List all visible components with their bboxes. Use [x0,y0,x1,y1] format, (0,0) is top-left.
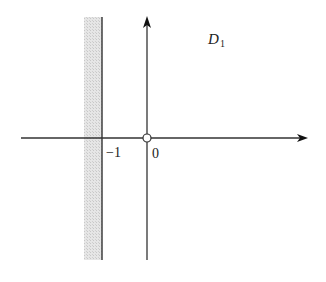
origin-excluded-point [143,134,151,142]
complex-plane-diagram: −1 0 D 1 [0,0,326,282]
region-label: D [207,31,219,47]
region-label-subscript: 1 [220,38,225,49]
tick-label-minus-one: −1 [106,145,121,160]
tick-label-origin: 0 [152,146,159,161]
